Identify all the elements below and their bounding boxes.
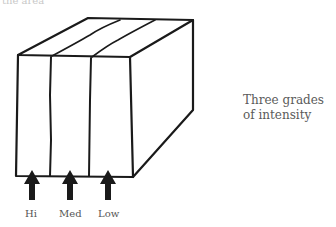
caption: Three grades of intensity: [243, 93, 324, 123]
box-side-face: [133, 20, 193, 177]
arrow-med: [62, 170, 78, 200]
box-top-face: [18, 18, 193, 57]
arrows: [24, 170, 116, 200]
box-front-face: [16, 55, 133, 177]
label-med: Med: [59, 208, 82, 219]
caption-line-1: Three grades: [243, 93, 324, 108]
arrow-low: [100, 170, 116, 200]
label-low: Low: [98, 208, 119, 219]
caption-line-2: of intensity: [243, 108, 324, 123]
label-hi: Hi: [25, 208, 37, 219]
arrow-hi: [24, 170, 40, 200]
